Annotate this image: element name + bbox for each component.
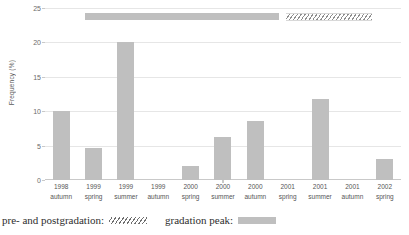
bar-slot — [77, 8, 109, 180]
x-tick-season: spring — [272, 192, 304, 202]
x-tick-season: summer — [207, 192, 239, 202]
x-tick-label: 1998autumn — [45, 182, 77, 201]
bar — [117, 42, 134, 180]
y-tick-label-20: 20 — [33, 39, 41, 46]
bar — [214, 137, 231, 180]
bar-slot — [207, 8, 239, 180]
x-tick-season: spring — [174, 192, 206, 202]
bar-slot — [174, 8, 206, 180]
bar-slot — [110, 8, 142, 180]
legend-swatch-hatched-icon — [109, 217, 147, 224]
x-tick-label: 2001autumn — [336, 182, 368, 201]
x-tick-year: 2001 — [313, 183, 327, 190]
y-tick-mark-0 — [42, 180, 45, 181]
x-tick-label: 2002spring — [369, 182, 401, 201]
x-tick-label: 2000autumn — [239, 182, 271, 201]
bar — [247, 121, 264, 180]
bar — [376, 159, 393, 180]
bar-slot — [304, 8, 336, 180]
x-tick-year: 2001 — [345, 183, 359, 190]
x-tick-year: 2000 — [183, 183, 197, 190]
x-tick-mark — [223, 180, 224, 183]
x-tick-year: 1998 — [54, 183, 68, 190]
bar — [312, 99, 329, 180]
y-tick-label-0: 0 — [37, 177, 41, 184]
y-axis-label: Frequency (%) — [8, 60, 15, 105]
legend-swatch-solid-icon — [238, 217, 276, 224]
x-tick-year: 1999 — [119, 183, 133, 190]
legend-entry-gradation-peak: gradation peak: — [165, 214, 276, 226]
x-tick-year: 2002 — [378, 183, 392, 190]
legend-label-pre-and-postgradation: pre- and postgradation: — [2, 214, 104, 226]
x-tick-season: spring — [77, 192, 109, 202]
bar-slot — [45, 8, 77, 180]
y-tick-label-25: 25 — [33, 5, 41, 12]
y-tick-label-5: 5 — [37, 142, 41, 149]
bar-chart-figure: Frequency (%) 25 20 15 10 5 0 1998autumn… — [0, 0, 409, 235]
x-tick-label: 2000summer — [207, 182, 239, 201]
x-tick-season: autumn — [336, 192, 368, 202]
x-tick-label: 2001summer — [304, 182, 336, 201]
bar — [182, 166, 199, 180]
bar-series — [45, 8, 401, 180]
x-tick-season: autumn — [45, 192, 77, 202]
x-tick-label: 2001spring — [272, 182, 304, 201]
x-tick-label: 1999summer — [110, 182, 142, 201]
x-axis-tick-labels: 1998autumn1999spring1999summer1999autumn… — [45, 182, 401, 201]
legend-entry-pre-and-postgradation: pre- and postgradation: — [2, 214, 147, 226]
x-tick-season: autumn — [142, 192, 174, 202]
x-tick-year: 2001 — [280, 183, 294, 190]
x-tick-season: summer — [304, 192, 336, 202]
x-tick-season: autumn — [239, 192, 271, 202]
bar-slot — [272, 8, 304, 180]
x-tick-label: 1999spring — [77, 182, 109, 201]
x-tick-year: 1999 — [86, 183, 100, 190]
plot-area: 25 20 15 10 5 0 — [45, 8, 401, 180]
bar — [85, 148, 102, 180]
x-tick-year: 1999 — [151, 183, 165, 190]
bar-slot — [142, 8, 174, 180]
bar-slot — [239, 8, 271, 180]
legend-label-gradation-peak: gradation peak: — [165, 214, 233, 226]
y-tick-label-15: 15 — [33, 73, 41, 80]
x-tick-season: spring — [369, 192, 401, 202]
x-tick-season: summer — [110, 192, 142, 202]
bar-slot — [336, 8, 368, 180]
x-tick-label: 1999autumn — [142, 182, 174, 201]
x-tick-year: 2000 — [216, 183, 230, 190]
chart-legend: pre- and postgradation: gradation peak: — [2, 214, 276, 226]
x-tick-year: 2000 — [248, 183, 262, 190]
x-tick-label: 2000spring — [174, 182, 206, 201]
y-tick-label-10: 10 — [33, 108, 41, 115]
bar-slot — [369, 8, 401, 180]
bar — [53, 111, 70, 180]
